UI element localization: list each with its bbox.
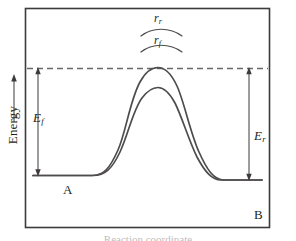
product-state-label: B (254, 207, 263, 223)
reverse-activation-energy-arrow (246, 67, 251, 181)
y-axis-arrow-icon (11, 74, 17, 122)
reactant-state-label: A (63, 182, 72, 198)
reverse-activation-energy-subscript: r (262, 134, 265, 144)
reverse-rate-arc-icon (141, 29, 182, 36)
reverse-rate-subscript: r (159, 17, 162, 26)
reverse-rate-symbol: r (154, 11, 159, 25)
reverse-rate-label: rr (154, 11, 162, 26)
energy-profile-figure: Energy A B (0, 0, 296, 241)
reverse-activation-energy-symbol: E (254, 128, 262, 143)
reverse-activation-energy-label: Er (254, 128, 266, 144)
forward-rate-subscript: f (159, 39, 161, 48)
forward-rate-label: rf (154, 33, 161, 48)
forward-rate-arc-icon (141, 45, 182, 52)
x-axis-caption: Reaction coordinate (0, 233, 296, 241)
diagram-canvas (0, 0, 296, 241)
forward-activation-energy-label: Ef (33, 110, 44, 126)
forward-activation-energy-symbol: E (33, 110, 41, 125)
catalyzed-energy-curve (33, 88, 262, 181)
forward-activation-energy-subscript: f (41, 116, 43, 126)
forward-rate-symbol: r (154, 33, 159, 47)
uncatalyzed-energy-curve (33, 68, 262, 181)
